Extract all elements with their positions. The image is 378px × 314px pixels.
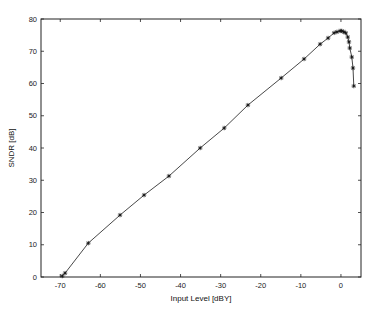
x-tick-label: -20 [255, 281, 266, 290]
y-tick-label: 70 [29, 47, 37, 56]
data-point-marker [318, 42, 322, 46]
data-point-marker [348, 46, 352, 50]
sndr-chart: -70-60-50-40-30-20-100 01020304050607080… [0, 0, 378, 314]
y-tick-label: 80 [29, 15, 37, 24]
y-tick-label: 40 [29, 144, 37, 153]
y-tick-label: 20 [29, 208, 37, 217]
x-tick-label: -30 [215, 281, 226, 290]
x-axis-ticks: -70-60-50-40-30-20-100 [55, 19, 343, 290]
data-point-marker [118, 213, 122, 217]
data-point-marker [302, 57, 306, 61]
data-markers [60, 29, 356, 279]
y-tick-label: 30 [29, 176, 37, 185]
y-tick-label: 50 [29, 111, 37, 120]
y-axis-ticks: 01020304050607080 [29, 15, 361, 282]
data-point-marker [326, 36, 330, 40]
x-tick-label: -70 [55, 281, 66, 290]
x-tick-label: -60 [95, 281, 106, 290]
x-tick-label: 0 [339, 281, 343, 290]
data-point-marker [63, 271, 67, 275]
sndr-line [62, 31, 354, 276]
x-tick-label: -40 [175, 281, 186, 290]
data-point-marker [346, 35, 350, 39]
y-tick-label: 60 [29, 79, 37, 88]
data-point-marker [222, 126, 226, 130]
data-point-marker [167, 174, 171, 178]
x-axis-label: Input Level [dBY] [171, 294, 232, 303]
x-tick-label: -10 [295, 281, 306, 290]
data-point-marker [350, 55, 354, 59]
y-tick-label: 0 [33, 273, 37, 282]
data-point-marker [246, 103, 250, 107]
data-point-marker [352, 84, 356, 88]
x-tick-label: -50 [135, 281, 146, 290]
data-point-marker [344, 31, 348, 35]
data-point-marker [86, 241, 90, 245]
data-point-marker [142, 193, 146, 197]
y-tick-label: 10 [29, 240, 37, 249]
data-point-marker [351, 66, 355, 70]
data-point-marker [347, 40, 351, 44]
data-point-marker [335, 30, 339, 34]
data-point-marker [279, 76, 283, 80]
data-point-marker [198, 146, 202, 150]
y-axis-label: SNDR [dB] [7, 128, 16, 167]
